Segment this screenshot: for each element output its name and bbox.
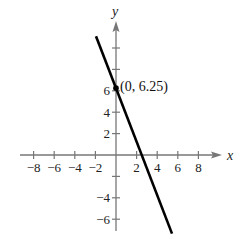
chart: −8−6−4−22468642−4−6 (0, 6.25) x y <box>0 0 244 239</box>
y-intercept-point <box>113 85 119 91</box>
x-tick-label: −2 <box>88 160 102 175</box>
x-tick-label: −6 <box>47 160 61 175</box>
y-tick-label: 2 <box>104 126 111 141</box>
axes <box>20 21 222 231</box>
y-axis-label: y <box>110 4 119 19</box>
x-tick-label: 4 <box>154 160 161 175</box>
x-tick-label: −8 <box>27 160 41 175</box>
x-tick-label: 8 <box>195 160 202 175</box>
y-tick-label: −4 <box>96 190 110 205</box>
y-tick-label: 6 <box>104 83 111 98</box>
y-tick-label: 4 <box>104 105 111 120</box>
points: (0, 6.25) <box>113 79 168 95</box>
x-axis-label: x <box>226 148 234 163</box>
x-tick-label: 2 <box>133 160 140 175</box>
x-tick-label: 6 <box>175 160 182 175</box>
x-tick-label: −4 <box>68 160 82 175</box>
ticks: −8−6−4−22468642−4−6 <box>27 48 202 227</box>
y-tick-label: −6 <box>96 212 110 227</box>
point-annotation: (0, 6.25) <box>120 79 168 95</box>
